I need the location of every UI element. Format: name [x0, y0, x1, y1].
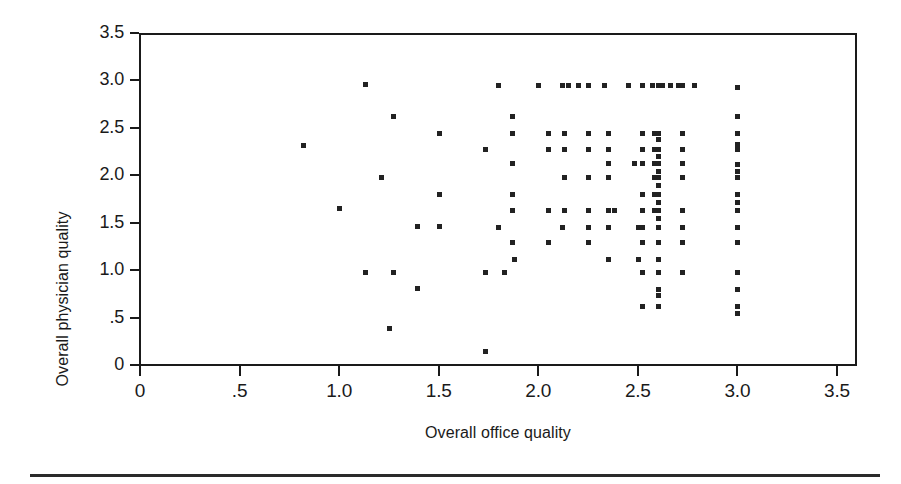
- data-point: [363, 82, 368, 87]
- data-point: [680, 240, 685, 245]
- data-point: [735, 311, 740, 316]
- data-point: [660, 83, 665, 88]
- y-tick-mark: [130, 32, 139, 34]
- data-point: [656, 257, 661, 262]
- data-point: [612, 208, 617, 213]
- data-point: [735, 270, 740, 275]
- y-tick-label: 3.0: [72, 70, 124, 88]
- data-point: [735, 131, 740, 136]
- x-tick-label: 1.0: [309, 380, 369, 402]
- data-point: [606, 257, 611, 262]
- y-tick-label: 1.5: [72, 213, 124, 231]
- data-point: [680, 270, 685, 275]
- data-point: [656, 183, 661, 188]
- x-tick-mark: [139, 366, 141, 376]
- y-tick-label-text: 3.5: [82, 23, 124, 41]
- data-point: [483, 147, 488, 152]
- y-tick-label: 2.0: [72, 165, 124, 183]
- data-point: [656, 208, 661, 213]
- x-tick-label-text: 3.0: [707, 380, 767, 402]
- x-tick-mark: [338, 366, 340, 376]
- data-point: [391, 270, 396, 275]
- data-point: [586, 147, 591, 152]
- data-point: [656, 161, 661, 166]
- data-point: [510, 240, 515, 245]
- y-tick-mark: [130, 79, 139, 81]
- data-point: [640, 270, 645, 275]
- x-axis-title: Overall office quality: [139, 424, 857, 442]
- data-point: [640, 208, 645, 213]
- x-tick-label-text: 2.5: [608, 380, 668, 402]
- data-point: [626, 83, 631, 88]
- data-point: [680, 83, 685, 88]
- y-tick-label: 1.0: [72, 260, 124, 278]
- x-tick-mark: [736, 366, 738, 376]
- data-point: [735, 114, 740, 119]
- data-point: [606, 131, 611, 136]
- data-point: [656, 175, 661, 180]
- data-point: [560, 83, 565, 88]
- data-point: [640, 225, 645, 230]
- data-point: [512, 257, 517, 262]
- data-point: [502, 270, 507, 275]
- data-point: [680, 131, 685, 136]
- x-tick-mark: [438, 366, 440, 376]
- data-point: [640, 192, 645, 197]
- data-point: [586, 131, 591, 136]
- data-point: [656, 131, 661, 136]
- x-tick-label: 1.5: [409, 380, 469, 402]
- data-point: [586, 83, 591, 88]
- data-point: [735, 287, 740, 292]
- y-axis-title-container: Overall physician quality: [24, 90, 50, 310]
- data-point: [510, 114, 515, 119]
- data-point: [415, 286, 420, 291]
- data-point: [735, 85, 740, 90]
- data-point: [560, 225, 565, 230]
- y-tick-label: 3.5: [72, 23, 124, 41]
- y-tick-mark: [130, 364, 139, 366]
- x-tick-label-text: 2.0: [508, 380, 568, 402]
- data-point: [606, 147, 611, 152]
- data-point: [510, 208, 515, 213]
- data-point: [656, 147, 661, 152]
- data-point: [510, 131, 515, 136]
- y-tick-label-text: 1.0: [82, 260, 124, 278]
- data-point: [656, 216, 661, 221]
- data-point: [656, 154, 661, 159]
- data-point: [415, 224, 420, 229]
- data-point: [656, 192, 661, 197]
- data-point: [680, 175, 685, 180]
- data-point: [391, 114, 396, 119]
- y-tick-mark: [130, 174, 139, 176]
- data-point: [656, 137, 661, 142]
- data-point: [586, 175, 591, 180]
- data-point: [640, 161, 645, 166]
- y-tick-label-text: 3.0: [82, 70, 124, 88]
- data-point: [606, 161, 611, 166]
- data-point: [437, 224, 442, 229]
- data-point: [586, 208, 591, 213]
- data-point: [387, 326, 392, 331]
- data-point: [735, 240, 740, 245]
- scatter-plot-figure: Overall physician quality 0.51.01.52.02.…: [0, 0, 901, 484]
- y-tick-mark: [130, 317, 139, 319]
- data-point: [735, 208, 740, 213]
- data-point: [496, 225, 501, 230]
- x-tick-label-text: 0: [110, 380, 170, 402]
- data-point: [363, 270, 368, 275]
- data-point: [586, 240, 591, 245]
- data-point: [546, 147, 551, 152]
- data-point: [606, 225, 611, 230]
- x-tick-label: .5: [210, 380, 270, 402]
- data-point: [536, 83, 541, 88]
- data-point: [692, 83, 697, 88]
- data-point: [668, 83, 673, 88]
- data-point: [656, 169, 661, 174]
- data-point: [379, 175, 384, 180]
- data-point: [650, 83, 655, 88]
- y-tick-label: 2.5: [72, 118, 124, 136]
- data-point: [566, 83, 571, 88]
- data-point: [562, 208, 567, 213]
- x-tick-label: 2.5: [608, 380, 668, 402]
- data-point: [632, 161, 637, 166]
